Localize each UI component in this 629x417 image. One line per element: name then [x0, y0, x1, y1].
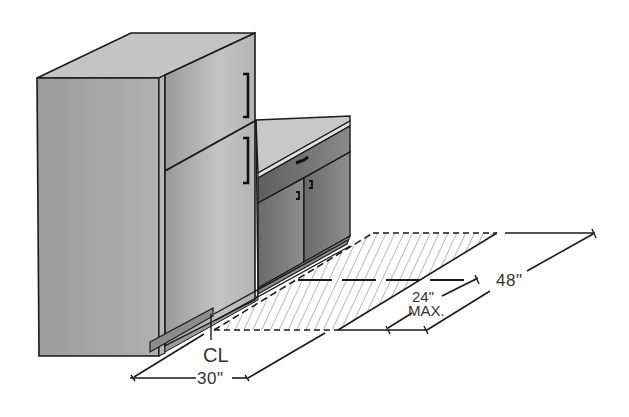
centerline-symbol: CL — [203, 344, 229, 366]
diagram-canvas: 30" CL 24" MAX. 48" — [0, 0, 629, 417]
clear-floor-space — [214, 233, 497, 330]
dimension-label-30: 30" — [197, 369, 223, 388]
dimension-label-48: 48" — [496, 271, 522, 290]
dimension-label-max: MAX. — [408, 302, 445, 319]
